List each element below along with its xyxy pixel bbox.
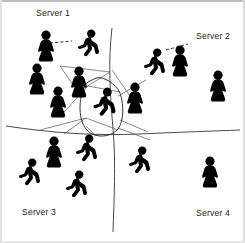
avatar-running bbox=[76, 29, 102, 61]
avatar-running bbox=[74, 134, 100, 166]
avatar-standing bbox=[122, 82, 148, 116]
avatar-standing bbox=[33, 30, 59, 64]
avatar-running bbox=[91, 87, 118, 121]
avatar-standing bbox=[167, 45, 193, 79]
avatar-running bbox=[127, 146, 153, 178]
region-divider-horizontal bbox=[6, 126, 240, 135]
region-divider-vertical bbox=[110, 28, 115, 232]
mesh-edge bbox=[64, 118, 86, 134]
avatar-running bbox=[142, 48, 168, 80]
server-partition-diagram: Server 1Server 2Server 3Server 4 bbox=[0, 0, 245, 243]
avatar-standing bbox=[197, 156, 223, 190]
avatar-running bbox=[64, 170, 90, 202]
label-server-1: Server 1 bbox=[36, 9, 70, 18]
avatar-standing bbox=[41, 136, 67, 170]
avatar-standing bbox=[45, 86, 71, 120]
label-server-4: Server 4 bbox=[196, 209, 230, 218]
label-server-3: Server 3 bbox=[22, 208, 56, 217]
avatar-running bbox=[17, 158, 43, 190]
label-server-2: Server 2 bbox=[196, 32, 230, 41]
avatar-standing bbox=[205, 70, 231, 104]
